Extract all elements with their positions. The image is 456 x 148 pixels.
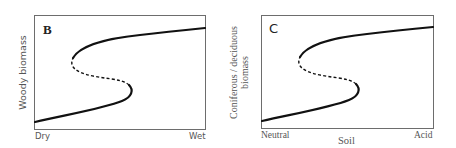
upper-stable-branch [73,28,205,58]
fold-curve-b [0,0,228,148]
x-tick-left-c: Neutral [261,130,290,140]
panel-b: B Woody biomass Dry Wet [0,0,228,148]
fold-curve-c [228,0,456,148]
x-tick-right-c: Acid [414,130,432,140]
upper-stable-branch [300,27,433,57]
lower-stable-branch [262,84,359,121]
x-tick-right-b: Wet [189,131,205,141]
panel-c: C Coniferous / deciduous biomass Neutral… [228,0,456,148]
y-axis-label-b: Woody biomass [17,33,28,113]
y-axis-label-c-line2: biomass [239,18,250,128]
unstable-branch [299,57,356,84]
x-axis-label-c: Soil [338,135,355,146]
panel-letter-b: B [43,22,52,38]
panel-letter-c: C [269,21,278,36]
lower-stable-branch [35,85,132,122]
y-axis-label-c: Coniferous / deciduous biomass [229,18,250,128]
y-axis-label-c-line1: Coniferous / deciduous [229,18,240,128]
unstable-branch [72,58,129,85]
x-tick-left-b: Dry [35,131,50,141]
